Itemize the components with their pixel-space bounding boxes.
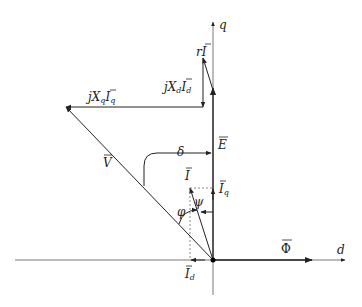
ri-vector — [203, 58, 213, 90]
svg-text:Iq: Iq — [218, 182, 229, 197]
v-label: V — [103, 155, 113, 170]
id-label: Id — [184, 266, 195, 282]
phi-label: Φ — [281, 240, 292, 256]
d-axis-label: d — [337, 243, 345, 257]
svg-text:V: V — [103, 156, 113, 170]
v-vector — [66, 107, 213, 260]
i-label: I — [184, 168, 192, 183]
svg-text:jXdId: jXdId — [161, 80, 191, 95]
jxdid-label: jXdId — [161, 79, 192, 95]
phasor-diagram: q d Φ E rI jXdId jXqIq V I Iq Id — [0, 0, 362, 307]
phi-angle-label: φ — [177, 205, 186, 219]
svg-text:E: E — [217, 138, 227, 152]
svg-text:jXqIq: jXqIq — [85, 90, 115, 105]
iq-label: Iq — [218, 181, 229, 197]
ri-label: rI — [196, 44, 211, 59]
e-label: E — [217, 137, 228, 152]
svg-text:I: I — [184, 169, 190, 183]
svg-text:Id: Id — [184, 267, 195, 282]
svg-text:Φ: Φ — [281, 242, 291, 256]
jxqiq-label: jXqIq — [85, 90, 116, 105]
svg-text:rI: rI — [196, 45, 207, 59]
delta-label: δ — [177, 145, 184, 159]
q-axis-label: q — [219, 18, 227, 32]
psi-label: ψ — [194, 195, 204, 209]
origin-dot — [211, 258, 216, 263]
